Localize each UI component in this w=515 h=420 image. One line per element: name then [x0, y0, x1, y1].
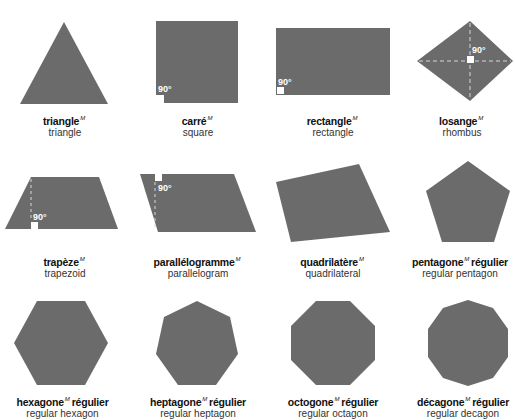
rectangle-shape: 90°: [275, 27, 391, 97]
gender-marker: M: [202, 396, 207, 402]
label-en: parallelogram: [133, 268, 263, 280]
right-angle-marker: [155, 174, 162, 181]
angle-label: 90°: [472, 45, 486, 55]
label-fr: losange: [439, 115, 477, 127]
gender-marker: M: [236, 256, 241, 262]
angle-label: 90°: [278, 77, 292, 87]
gender-marker: M: [465, 396, 470, 402]
label-fr: octogone: [288, 396, 334, 408]
label-square: carréM square: [133, 112, 263, 139]
label-fr: trapèze: [43, 256, 78, 268]
gender-marker: M: [207, 115, 212, 121]
label-rectangle: rectangleM rectangle: [268, 112, 398, 139]
decagon-shape: [424, 299, 512, 387]
label-fr-suffix: régulier: [471, 256, 508, 268]
gender-marker: M: [65, 396, 70, 402]
label-fr: hexagone: [16, 396, 63, 408]
label-fr: décagone: [417, 396, 464, 408]
label-decagon: décagoneMrégulier regular decagon: [403, 393, 515, 420]
gender-marker: M: [80, 256, 85, 262]
label-fr: carré: [182, 115, 207, 127]
angle-label: 90°: [33, 212, 47, 222]
heptagon-shape: [154, 299, 240, 389]
label-en: rhombus: [402, 127, 515, 139]
square-shape: 90°: [155, 20, 240, 105]
label-trapezoid: trapèzeM trapezoid: [0, 253, 130, 280]
angle-label: 90°: [158, 84, 172, 94]
label-en: rectangle: [268, 127, 398, 139]
angle-label: 90°: [158, 183, 172, 193]
parallelogram-shape: 90°: [138, 172, 258, 234]
label-en: square: [133, 127, 263, 139]
gender-marker: M: [478, 115, 483, 121]
gender-marker: M: [334, 396, 339, 402]
right-angle-marker: [277, 87, 284, 94]
right-angle-marker: [156, 95, 164, 103]
octagon-shape: [290, 300, 376, 386]
label-fr: quadrilatère: [300, 256, 358, 268]
right-angle-marker: [31, 222, 38, 229]
gender-marker: M: [353, 115, 358, 121]
label-en: triangle: [0, 127, 130, 139]
label-en: regular decagon: [403, 408, 515, 420]
label-en: quadrilateral: [268, 268, 398, 280]
pentagon-shape: [423, 158, 513, 246]
gender-marker: M: [464, 256, 469, 262]
label-fr-suffix: régulier: [472, 396, 509, 408]
label-rhombus: losangeM rhombus: [402, 112, 515, 139]
label-hexagon: hexagoneMrégulier regular hexagon: [0, 393, 125, 420]
label-quadrilateral: quadrilatèreM quadrilateral: [268, 253, 398, 280]
triangle-shape: [14, 18, 114, 108]
label-heptagon: heptagoneMrégulier regular heptagon: [133, 393, 263, 420]
label-octagon: octogoneMrégulier regular octagon: [268, 393, 398, 420]
label-fr: pentagone: [412, 256, 463, 268]
label-en: regular heptagon: [133, 408, 263, 420]
label-fr-suffix: régulier: [341, 396, 378, 408]
label-pentagon: pentagoneMrégulier regular pentagon: [400, 253, 515, 280]
label-fr: triangle: [43, 115, 79, 127]
label-en: regular pentagon: [400, 268, 515, 280]
hexagon-shape: [13, 299, 109, 387]
quadrilateral-shape: [274, 162, 392, 244]
right-angle-marker: [467, 56, 474, 63]
label-fr: parallélogramme: [154, 256, 235, 268]
gender-marker: M: [80, 115, 85, 121]
label-fr: rectangle: [307, 115, 352, 127]
label-fr-suffix: régulier: [209, 396, 246, 408]
rhombus-shape: 90°: [414, 20, 514, 102]
label-en: trapezoid: [0, 268, 130, 280]
label-en: regular hexagon: [0, 408, 125, 420]
gender-marker: M: [359, 256, 364, 262]
label-parallelogram: parallélogrammeM parallelogram: [133, 253, 263, 280]
label-fr-suffix: régulier: [72, 396, 109, 408]
trapezoid-shape: 90°: [3, 175, 121, 233]
label-fr: heptagone: [150, 396, 201, 408]
label-en: regular octagon: [268, 408, 398, 420]
label-triangle: triangleM triangle: [0, 112, 130, 139]
